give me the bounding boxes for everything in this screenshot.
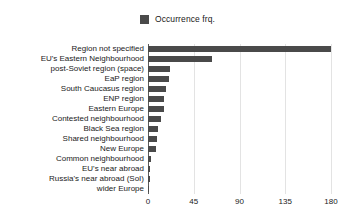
category-label: EaP region <box>0 75 144 83</box>
chart-legend: Occurrence frq. <box>0 14 355 24</box>
category-label: Shared neighbourhood <box>0 135 144 143</box>
category-label: Russia's near abroad (SoI) <box>0 175 144 183</box>
bar-chart: Occurrence frq. Region not specifiedEU's… <box>0 0 355 224</box>
gridline-180 <box>331 44 332 194</box>
bar-row <box>148 184 331 194</box>
category-label: ENP region <box>0 95 144 103</box>
bar-row <box>148 144 331 154</box>
legend-item-label: Occurrence frq. <box>155 14 215 24</box>
bar <box>148 86 166 92</box>
bar <box>148 126 158 132</box>
bar <box>148 66 170 72</box>
bar <box>148 166 150 172</box>
category-label: post-Soviet region (space) <box>0 65 144 73</box>
bar <box>148 106 164 112</box>
bar-row <box>148 154 331 164</box>
value-axis-ticks: 04590135180 <box>148 197 331 211</box>
bar-row <box>148 54 331 64</box>
plot-area <box>148 44 331 194</box>
x-tick-label: 180 <box>324 197 337 206</box>
category-label: wider Europe <box>0 185 144 193</box>
bar-row <box>148 134 331 144</box>
bar-row <box>148 84 331 94</box>
bar <box>148 186 149 192</box>
category-label: Black Sea region <box>0 125 144 133</box>
category-label: EU's Eastern Neighbourhood <box>0 55 144 63</box>
bar-row <box>148 94 331 104</box>
bar <box>148 56 212 62</box>
bar-row <box>148 64 331 74</box>
bar <box>148 46 331 52</box>
x-tick-label: 90 <box>235 197 244 206</box>
bar <box>148 146 156 152</box>
square-swatch-icon <box>140 15 149 24</box>
bar-row <box>148 74 331 84</box>
category-label: New Europe <box>0 145 144 153</box>
bar-row <box>148 44 331 54</box>
bar <box>148 116 161 122</box>
x-tick-label: 45 <box>189 197 198 206</box>
bar <box>148 76 169 82</box>
x-tick-label: 0 <box>146 197 150 206</box>
bar-row <box>148 164 331 174</box>
category-label: Eastern Europe <box>0 105 144 113</box>
bar <box>148 96 164 102</box>
category-axis-labels: Region not specifiedEU's Eastern Neighbo… <box>0 44 144 194</box>
category-label: Common neighbourhood <box>0 155 144 163</box>
bar-row <box>148 174 331 184</box>
bar <box>148 156 151 162</box>
bar-rows <box>148 44 331 194</box>
bar <box>148 136 157 142</box>
bar <box>148 176 150 182</box>
category-label: Region not specified <box>0 45 144 53</box>
category-label: Contested neighbourhood <box>0 115 144 123</box>
category-label: South Caucasus region <box>0 85 144 93</box>
bar-row <box>148 124 331 134</box>
bar-row <box>148 114 331 124</box>
bar-row <box>148 104 331 114</box>
x-tick-label: 135 <box>279 197 292 206</box>
category-label: EU's near abroad <box>0 165 144 173</box>
